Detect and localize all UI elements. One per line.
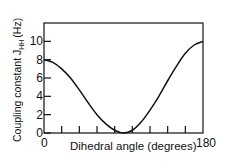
y-tick-label: 4 <box>36 89 43 103</box>
y-tick-label: 6 <box>36 71 43 85</box>
y-tick-label: 8 <box>36 53 43 67</box>
x-axis-ticks <box>62 126 186 133</box>
y-axis-ticks: 0246810 <box>30 34 51 140</box>
data-curve <box>44 41 203 133</box>
y-tick-label: 10 <box>30 34 44 48</box>
y-tick-label: 2 <box>36 108 43 122</box>
x-axis-label: Dihedral angle (degrees) <box>70 140 197 152</box>
x-tick-label-180: 180 <box>196 136 216 150</box>
karplus-chart: 0246810 0 180 Dihedral angle (degrees) C… <box>0 0 227 165</box>
x-tick-label-0: 0 <box>41 136 48 150</box>
plot-frame <box>44 23 203 133</box>
y-axis-label: Coupling constant JHH(Hz) <box>11 18 25 142</box>
